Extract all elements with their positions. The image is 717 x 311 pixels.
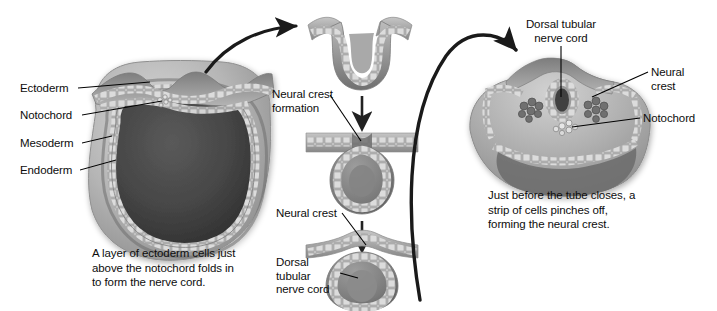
caption-left: A layer of ectoderm cells just above the… (92, 246, 292, 290)
caption-right: Just before the tube closes, a strip of … (488, 188, 698, 232)
label-neural-crest-right: Neural crest (651, 66, 684, 93)
label-ectoderm: Ectoderm (20, 82, 68, 96)
stage2-closing-tube (306, 133, 418, 214)
figure-canvas: Ectoderm Notochord Mesoderm Endoderm A l… (0, 0, 717, 311)
label-endoderm: Endoderm (20, 164, 72, 178)
label-neural-crest-formation: Neural crest formation (272, 88, 362, 115)
label-mesoderm: Mesoderm (20, 137, 74, 151)
right-embryo-illustration (470, 58, 650, 196)
stage1-neural-groove (308, 17, 412, 90)
label-notochord: Notochord (20, 109, 72, 123)
label-dorsal-tubular-nerve-cord-right: Dorsal tubular nerve cord (506, 18, 616, 45)
left-embryo-illustration (89, 61, 274, 261)
right-neural-tube (548, 81, 576, 119)
label-dorsal-tubular-nerve-cord-middle: Dorsal tubular nerve cord (276, 256, 338, 297)
label-notochord-right: Notochord (643, 112, 695, 126)
label-neural-crest-middle: Neural crest (276, 207, 337, 221)
